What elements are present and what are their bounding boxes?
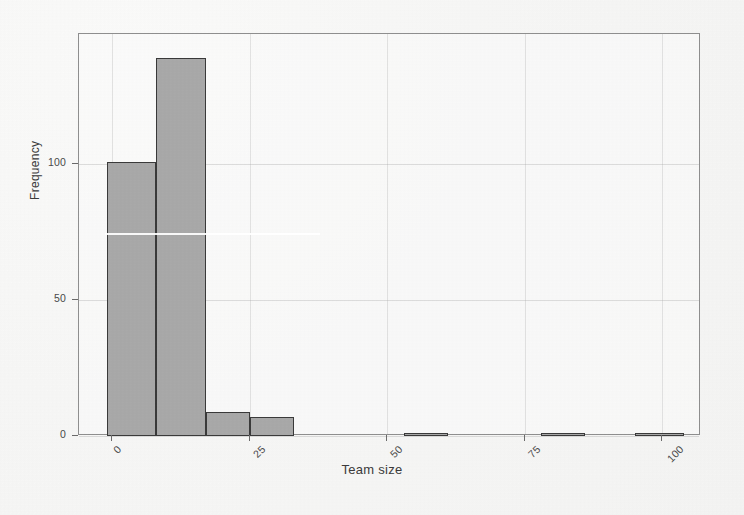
x-axis-tick [111, 435, 112, 441]
histogram-bar [541, 433, 585, 436]
histogram-bar [206, 412, 250, 436]
x-axis-tick [386, 435, 387, 441]
y-axis-tick [72, 299, 78, 300]
plot-panel [78, 33, 700, 435]
y-axis-tick-label: 0 [60, 428, 66, 440]
x-axis-tick-label: 75 [525, 443, 542, 460]
histogram-bar [250, 417, 294, 436]
x-axis-title: Team size [0, 462, 744, 477]
histogram-chart: 050100 0255075100 Frequency Team size [0, 0, 744, 515]
gridline-vertical [525, 34, 526, 434]
y-axis-tick [72, 435, 78, 436]
gridline-vertical [387, 34, 388, 434]
x-axis-tick [249, 435, 250, 441]
y-axis-tick-label: 50 [54, 292, 66, 304]
y-axis-tick [72, 163, 78, 164]
gridline-horizontal [79, 436, 699, 437]
x-axis-tick [524, 435, 525, 441]
histogram-bar [404, 433, 448, 436]
x-axis-tick [661, 435, 662, 441]
x-axis-tick-label: 0 [111, 443, 124, 456]
x-axis-tick-label: 25 [250, 443, 267, 460]
y-axis-tick-label: 100 [48, 156, 66, 168]
scan-streak-artifact [105, 233, 320, 235]
gridline-vertical [662, 34, 663, 434]
y-axis-title: Frequency [28, 141, 42, 200]
histogram-bar [635, 433, 685, 436]
histogram-bar [107, 162, 157, 436]
x-axis-tick-label: 50 [388, 443, 405, 460]
histogram-bar [156, 58, 206, 436]
